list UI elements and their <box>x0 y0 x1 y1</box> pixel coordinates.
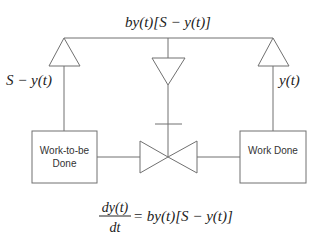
work-done-stock <box>240 131 306 183</box>
right-up-triangle-icon <box>258 38 289 66</box>
valve-left-triangle-icon <box>140 141 168 173</box>
valve-right-triangle-icon <box>168 141 197 173</box>
equation-denominator: dt <box>110 220 122 235</box>
equation-numerator: dy(t) <box>102 200 129 216</box>
work-to-be-done-label-line2: Done <box>53 158 77 169</box>
right-flow-label: y(t) <box>277 72 300 89</box>
left-up-triangle-icon <box>49 38 80 66</box>
work-to-be-done-stock <box>32 131 97 183</box>
center-down-triangle-icon <box>152 58 185 85</box>
left-flow-label: S − y(t) <box>6 72 52 89</box>
work-to-be-done-label-line1: Work-to-be <box>40 145 90 156</box>
equation-rhs: = by(t)[S − y(t)] <box>133 208 233 225</box>
stock-flow-diagram: by(t)[S − y(t)] S − y(t) y(t) Work-to-be… <box>0 0 318 241</box>
top-flow-label: by(t)[S − y(t)] <box>125 14 211 31</box>
work-done-label: Work Done <box>248 145 298 156</box>
